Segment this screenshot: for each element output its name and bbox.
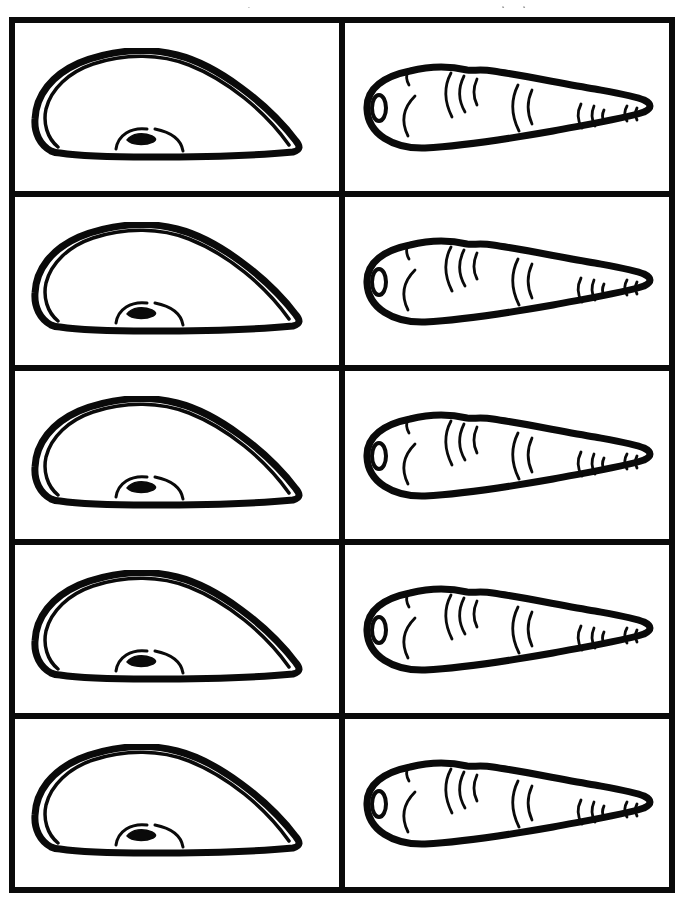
carrot-illustration [355,578,659,680]
table-row [15,713,669,887]
cell-melon-slice [15,23,339,191]
cell-carrot [339,371,669,539]
table-row [15,23,669,191]
cell-carrot [339,197,669,365]
cell-melon-slice [15,197,339,365]
flashcard-grid [9,17,675,893]
cell-melon-slice [15,371,339,539]
melon-slice-illustration [31,744,323,862]
table-row [15,191,669,365]
carrot-illustration [355,230,659,332]
cell-melon-slice [15,545,339,713]
worksheet-page [0,0,683,903]
cell-melon-slice [15,719,339,887]
melon-slice-illustration [31,570,323,688]
melon-slice-illustration [31,222,323,340]
melon-slice-illustration [31,48,323,166]
cropped-header-text [0,0,683,8]
cell-carrot [339,545,669,713]
cropped-text-remnant-icon [0,6,683,8]
cell-carrot [339,23,669,191]
cell-carrot [339,719,669,887]
carrot-illustration [355,752,659,854]
melon-slice-illustration [31,396,323,514]
table-row [15,365,669,539]
table-row [15,539,669,713]
carrot-illustration [355,56,659,158]
carrot-illustration [355,404,659,506]
